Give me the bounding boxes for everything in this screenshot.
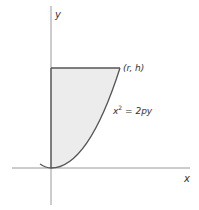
- x-axis-label: x: [183, 173, 190, 184]
- diagram-canvas: y x (r, h) x2 = 2py: [0, 0, 199, 210]
- y-axis-label: y: [54, 9, 62, 20]
- equation-rest: = 2py: [122, 106, 153, 116]
- curve-equation-label: x2 = 2py: [112, 104, 153, 116]
- point-label-r-h: (r, h): [123, 63, 144, 73]
- shaded-region: [51, 68, 120, 168]
